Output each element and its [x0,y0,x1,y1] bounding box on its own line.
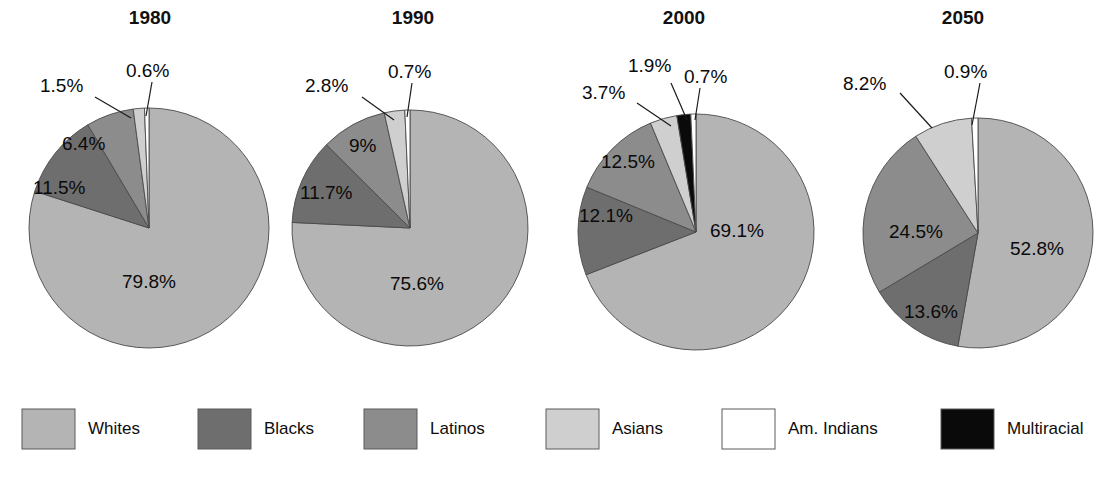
legend-swatch-latinos [364,409,417,449]
label-1980-am-indians: 0.6% [126,60,169,81]
legend-label-latinos: Latinos [430,419,485,438]
legend-item-latinos[interactable]: Latinos [364,409,485,449]
label-1990-latinos: 9% [349,135,377,156]
leader-2050-asians [900,93,932,128]
legend-label-asians: Asians [612,419,663,438]
label-2000-asians: 3.7% [582,82,625,103]
legend-item-asians[interactable]: Asians [546,409,663,449]
legend-swatch-multiracial [941,409,994,449]
pie-panel-2000: 2000 3.7% 1.9% 0.7% 12.5% 12.1% 69.1% [578,7,814,350]
label-1980-asians: 1.5% [40,75,83,96]
legend: Whites Blacks Latinos Asians Am. Indians… [22,409,1084,449]
racial-composition-pie-chart-figure: 1980 1.5% 0.6% 6.4% 11.5% 79.8% 1990 2.8… [0,0,1112,478]
pie-panel-2050: 2050 8.2% 0.9% 24.5% 13.6% 52.8% [843,7,1093,348]
legend-swatch-whites [22,409,75,449]
legend-swatch-blacks [198,409,251,449]
label-2050-blacks: 13.6% [904,301,958,322]
legend-label-whites: Whites [88,419,140,438]
legend-label-multiracial: Multiracial [1007,419,1084,438]
label-2000-am-indians: 0.7% [684,66,727,87]
label-2050-asians: 8.2% [843,73,886,94]
legend-item-multiracial[interactable]: Multiracial [941,409,1084,449]
legend-label-am-indians: Am. Indians [788,419,878,438]
label-1980-blacks: 11.5% [33,177,86,198]
legend-item-blacks[interactable]: Blacks [198,409,314,449]
pie-panel-1990: 1990 2.8% 0.7% 9% 11.7% 75.6% [292,7,528,346]
pie-2000-slices [578,114,814,350]
label-1990-blacks: 11.7% [300,182,353,203]
label-2000-whites: 69.1% [710,220,764,241]
panel-title-2000: 2000 [663,7,705,28]
legend-label-blacks: Blacks [264,419,314,438]
label-2000-multiracial: 1.9% [628,55,671,76]
label-1980-whites: 79.8% [122,271,176,292]
pie-1990-slices [292,110,528,346]
label-2050-latinos: 24.5% [889,221,943,242]
label-2000-blacks: 12.1% [579,205,633,226]
legend-swatch-asians [546,409,599,449]
panel-title-2050: 2050 [942,7,984,28]
panel-title-1980: 1980 [129,7,171,28]
label-1990-am-indians: 0.7% [388,61,431,82]
legend-swatch-am-indians [722,409,775,449]
legend-item-whites[interactable]: Whites [22,409,140,449]
panel-title-1990: 1990 [392,7,434,28]
leader-2000-multiracial [671,83,687,120]
label-1990-asians: 2.8% [305,75,348,96]
label-2050-whites: 52.8% [1010,238,1064,259]
legend-item-am-indians[interactable]: Am. Indians [722,409,878,449]
label-1980-latinos: 6.4% [62,133,105,154]
label-2050-am-indians: 0.9% [944,61,987,82]
label-1990-whites: 75.6% [390,273,444,294]
label-2000-latinos: 12.5% [601,151,655,172]
pie-panel-1980: 1980 1.5% 0.6% 6.4% 11.5% 79.8% [29,7,269,348]
